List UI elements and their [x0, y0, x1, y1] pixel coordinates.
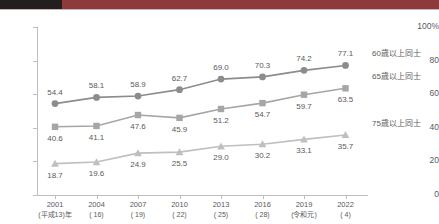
data-point-marker	[52, 124, 58, 130]
data-point-label: 63.5	[331, 95, 361, 104]
data-point-label: 70.3	[248, 61, 278, 70]
data-point-label: 54.4	[40, 88, 70, 97]
data-point-marker	[218, 106, 224, 112]
data-point-marker	[301, 92, 307, 98]
data-point-label: 29.0	[206, 153, 236, 162]
data-point-label: 51.2	[206, 116, 236, 125]
data-point-marker	[52, 100, 59, 107]
data-point-label: 35.7	[331, 142, 361, 151]
data-point-marker	[259, 73, 266, 80]
data-point-marker	[93, 94, 100, 101]
data-point-label: 58.9	[123, 80, 153, 89]
data-point-label: 24.9	[123, 160, 153, 169]
data-point-label: 47.6	[123, 122, 153, 131]
data-point-marker	[259, 100, 265, 106]
data-point-label: 77.1	[331, 49, 361, 58]
data-point-marker	[342, 85, 348, 91]
data-point-label: 25.5	[165, 159, 195, 168]
data-point-label: 33.1	[289, 146, 319, 155]
data-point-marker	[176, 115, 182, 121]
legend-item: 60歳以上同士	[372, 49, 421, 59]
data-point-marker	[93, 123, 99, 129]
data-point-marker	[135, 93, 142, 100]
data-point-label: 54.7	[248, 110, 278, 119]
data-point-label: 19.6	[82, 169, 112, 178]
data-point-marker	[176, 86, 183, 93]
top-banner	[0, 0, 439, 9]
data-point-label: 18.7	[40, 171, 70, 180]
data-point-marker	[218, 76, 225, 83]
data-point-marker	[301, 67, 308, 74]
data-point-label: 40.6	[40, 134, 70, 143]
banner-dark-block	[0, 0, 62, 9]
data-point-label: 62.7	[165, 74, 195, 83]
legend-item: 75歳以上同士	[372, 119, 421, 129]
data-point-label: 69.0	[206, 63, 236, 72]
data-point-label: 41.1	[82, 133, 112, 142]
data-point-label: 58.1	[82, 81, 112, 90]
legend-item: 65歳以上同士	[372, 72, 421, 82]
data-point-marker	[342, 62, 349, 69]
data-point-marker	[135, 112, 141, 118]
data-point-label: 74.2	[289, 54, 319, 63]
data-point-label: 45.9	[165, 125, 195, 134]
data-point-label: 59.7	[289, 102, 319, 111]
line-chart: 020406080100% 2001(平成13)年2004( 16)2007( …	[0, 10, 439, 224]
data-point-label: 30.2	[248, 151, 278, 160]
